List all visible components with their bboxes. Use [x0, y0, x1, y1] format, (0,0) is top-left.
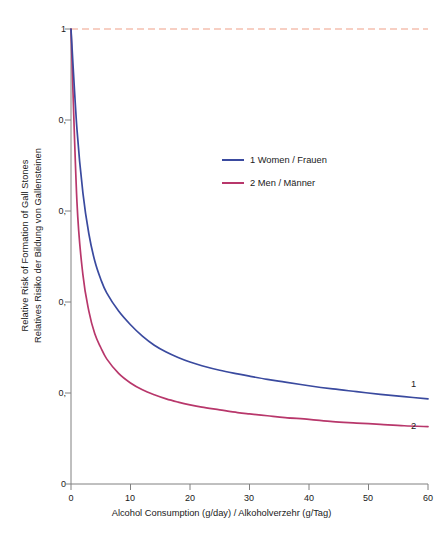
x-tick-label: 0	[68, 493, 73, 503]
x-axis-title: Alcohol Consumption (g/day) / Alkoholver…	[0, 508, 443, 518]
series-end-label-women: 1	[411, 379, 416, 389]
series-end-label-men: 2	[411, 421, 416, 431]
legend-label-women: 1 Women / Frauen	[250, 155, 327, 165]
chart-legend: 1 Women / Frauen 2 Men / Männer	[222, 155, 327, 188]
legend-item-women: 1 Women / Frauen	[222, 155, 327, 165]
x-tick-label: 20	[185, 493, 195, 503]
x-axis-tick-labels: 0 10 20 30 40 50 60	[0, 0, 443, 548]
x-tick-label: 40	[304, 493, 314, 503]
x-tick-label: 50	[363, 493, 373, 503]
legend-swatch-men-icon	[222, 182, 244, 184]
x-tick-label: 30	[244, 493, 254, 503]
legend-label-men: 2 Men / Männer	[250, 178, 315, 188]
chart-figure: Relative Risk of Formation of Gall Stone…	[0, 0, 443, 548]
x-tick-label: 60	[423, 493, 433, 503]
legend-swatch-women-icon	[222, 159, 244, 161]
legend-item-men: 2 Men / Männer	[222, 178, 327, 188]
x-tick-label: 10	[125, 493, 135, 503]
